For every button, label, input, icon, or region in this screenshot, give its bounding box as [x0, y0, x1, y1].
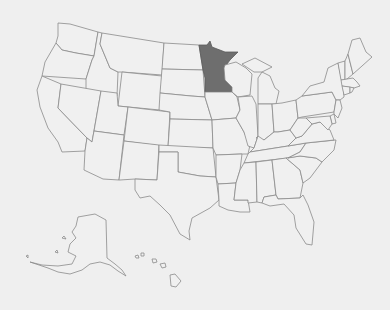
state-new-jersey[interactable] [334, 100, 342, 118]
state-alaska[interactable] [30, 214, 126, 276]
us-states-svg [0, 0, 390, 310]
state-colorado[interactable] [124, 107, 170, 147]
state-maine[interactable] [348, 38, 372, 74]
state-kansas[interactable] [168, 119, 213, 148]
state-florida[interactable] [262, 195, 314, 245]
state-wyoming[interactable] [118, 72, 162, 110]
state-rhode-island[interactable] [350, 87, 354, 93]
state-north-dakota[interactable] [162, 43, 203, 70]
state-south-dakota[interactable] [160, 69, 205, 97]
state-new-mexico[interactable] [119, 141, 159, 180]
alaska-islands [26, 236, 66, 258]
us-map: United States [0, 0, 390, 310]
state-hawaii[interactable] [135, 253, 181, 287]
